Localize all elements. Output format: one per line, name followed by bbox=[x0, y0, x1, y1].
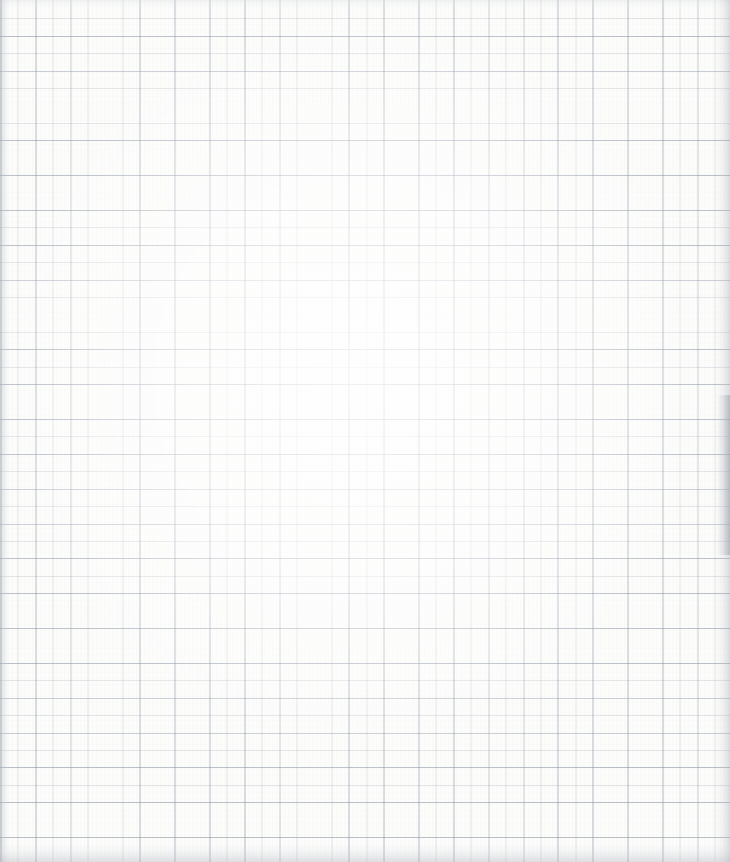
graph-grid-major-lines bbox=[0, 0, 730, 862]
scanned-page bbox=[0, 0, 730, 862]
